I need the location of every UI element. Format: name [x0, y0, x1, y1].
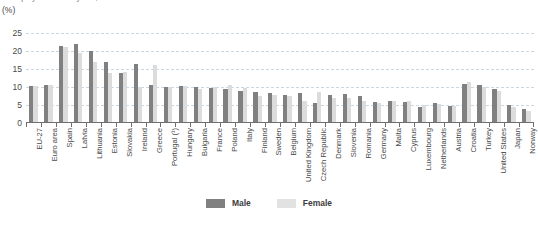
bar-female[interactable] — [78, 53, 82, 123]
bar-female[interactable] — [302, 101, 306, 123]
bar-group[interactable] — [235, 33, 250, 123]
bar-female[interactable] — [213, 87, 217, 123]
bar-group[interactable] — [340, 33, 355, 123]
x-axis-label-cell: Estonia — [101, 128, 116, 190]
bar-group[interactable] — [295, 33, 310, 123]
bar-female[interactable] — [377, 103, 381, 123]
bar-group[interactable] — [190, 33, 205, 123]
bar-female[interactable] — [452, 106, 456, 123]
x-axis-label-cell: Euro area — [41, 128, 56, 190]
bar-female[interactable] — [93, 62, 97, 123]
bar-female[interactable] — [153, 65, 157, 123]
x-axis-label-cell: Poland — [220, 128, 235, 190]
y-axis-tick-label: 0 — [17, 118, 22, 128]
bar-group[interactable] — [310, 33, 325, 123]
x-axis-label-cell: EU-27 — [26, 128, 41, 190]
x-axis-tick — [56, 123, 71, 127]
x-axis-label-cell: Germany — [370, 128, 385, 190]
x-axis-tick — [205, 123, 220, 127]
bar-group[interactable] — [71, 33, 86, 123]
x-axis-tick — [41, 123, 56, 127]
bar-female[interactable] — [123, 72, 127, 123]
x-axis-tick — [280, 123, 295, 127]
bar-group[interactable] — [429, 33, 444, 123]
x-axis-tick — [414, 123, 429, 127]
bar-female[interactable] — [362, 101, 366, 123]
bar-female[interactable] — [482, 87, 486, 123]
x-axis-label-cell: Turkey — [474, 128, 489, 190]
bar-female[interactable] — [243, 88, 247, 123]
x-axis-label-cell: Slovenia — [340, 128, 355, 190]
bar-group[interactable] — [370, 33, 385, 123]
bar-group[interactable] — [355, 33, 370, 123]
bar-group[interactable] — [131, 33, 146, 123]
bar-female[interactable] — [347, 98, 351, 123]
bar-group[interactable] — [175, 33, 190, 123]
square-swatch-icon — [277, 199, 296, 208]
legend-item-female[interactable]: Female — [277, 198, 332, 208]
x-axis-tick — [399, 123, 414, 127]
bar-female[interactable] — [422, 105, 426, 123]
bar-group[interactable] — [385, 33, 400, 123]
bar-female[interactable] — [287, 96, 291, 123]
bar-group[interactable] — [26, 33, 41, 123]
bar-group[interactable] — [220, 33, 235, 123]
bar-group[interactable] — [265, 33, 280, 123]
bar-group[interactable] — [414, 33, 429, 123]
bar-group[interactable] — [519, 33, 534, 123]
bar-female[interactable] — [258, 96, 262, 123]
bar-group[interactable] — [504, 33, 519, 123]
bar-female[interactable] — [317, 92, 321, 123]
bar-group[interactable] — [250, 33, 265, 123]
bar-group[interactable] — [489, 33, 504, 123]
bar-female[interactable] — [183, 86, 187, 123]
x-axis-label-cell: Hungary — [175, 128, 190, 190]
x-axis-tick — [444, 123, 459, 127]
bar-female[interactable] — [407, 101, 411, 123]
bar-group[interactable] — [399, 33, 414, 123]
bar-group[interactable] — [56, 33, 71, 123]
x-axis-tick — [295, 123, 310, 127]
bar-group[interactable] — [205, 33, 220, 123]
legend-label: Female — [303, 198, 332, 208]
bar-group[interactable] — [160, 33, 175, 123]
bar-group[interactable] — [459, 33, 474, 123]
bar-group[interactable] — [146, 33, 161, 123]
bar-female[interactable] — [198, 89, 202, 123]
bar-female[interactable] — [63, 47, 67, 123]
bar-female[interactable] — [228, 85, 232, 123]
bar-female[interactable] — [138, 87, 142, 123]
bar-group[interactable] — [280, 33, 295, 123]
bar-female[interactable] — [497, 91, 501, 123]
y-axis-tick-label: 10 — [13, 82, 22, 92]
x-axis-tick — [385, 123, 400, 127]
bar-female[interactable] — [272, 95, 276, 123]
bar-female[interactable] — [511, 107, 515, 123]
bar-group[interactable] — [86, 33, 101, 123]
bar-group[interactable] — [474, 33, 489, 123]
bar-female[interactable] — [108, 73, 112, 123]
x-axis-tick — [340, 123, 355, 127]
legend-item-male[interactable]: Male — [206, 198, 251, 208]
x-axis-tick — [429, 123, 444, 127]
bar-female[interactable] — [33, 86, 37, 123]
bar-female[interactable] — [48, 85, 52, 123]
bar-group[interactable] — [41, 33, 56, 123]
y-axis-labels: 0510152025 — [0, 26, 26, 124]
bar-group[interactable] — [325, 33, 340, 123]
bar-female[interactable] — [437, 104, 441, 123]
bar-group[interactable] — [444, 33, 459, 123]
bar-group[interactable] — [116, 33, 131, 123]
bar-female[interactable] — [392, 101, 396, 123]
bar-group[interactable] — [101, 33, 116, 123]
y-axis-tick-label: 20 — [13, 46, 22, 56]
bar-female[interactable] — [332, 98, 336, 123]
x-axis-tick — [86, 123, 101, 127]
x-axis-label-cell: Slovakia — [116, 128, 131, 190]
x-axis-label-cell: United States — [489, 128, 504, 190]
bar-female[interactable] — [168, 87, 172, 123]
x-axis-tick — [131, 123, 146, 127]
x-axis-label-cell: Malta — [385, 128, 400, 190]
bar-female[interactable] — [467, 82, 471, 123]
x-axis-tick — [175, 123, 190, 127]
